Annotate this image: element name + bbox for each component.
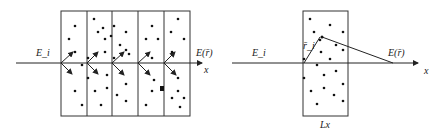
- right-single-slab-panel: E_i r̄_i E(r̄) x Lx: [232, 11, 429, 130]
- left-multislab-panel: E_i E(r̄) x: [16, 11, 213, 116]
- scattered-path: [322, 37, 393, 63]
- scattering-diagram: E_i E(r̄) x E_i r̄_i E(r̄) x Lx: [0, 0, 442, 133]
- left-output-label: E(r̄): [195, 47, 213, 59]
- right-output-label: E(r̄): [387, 47, 405, 59]
- thickness-label: Lx: [319, 119, 331, 130]
- right-position-label: r̄_i: [303, 40, 315, 51]
- scatterers: [303, 18, 345, 106]
- right-axis-label: x: [423, 65, 429, 76]
- right-incident-label: E_i: [251, 47, 266, 58]
- left-incident-label: E_i: [35, 47, 50, 58]
- left-axis-label: x: [203, 64, 209, 75]
